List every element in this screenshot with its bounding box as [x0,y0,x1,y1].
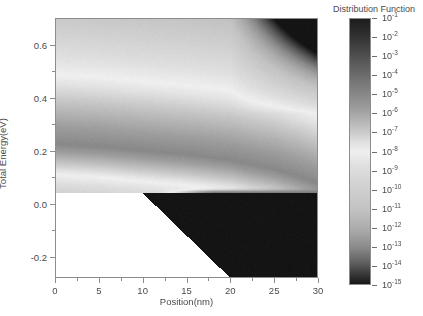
y-axis-minor-tick [52,177,55,178]
x-axis-tick [99,278,100,283]
colorbar-tick [372,94,377,95]
heatmap-plot-area [55,18,318,278]
y-axis-tick-label: 0.0 [3,198,47,209]
x-axis-minor-tick [252,278,253,281]
y-axis-tick [50,204,55,205]
colorbar-tick [372,171,377,172]
colorbar-tick-label: 10-6 [382,108,398,118]
colorbar-tick-label: 10-5 [382,89,398,99]
x-axis-minor-tick [121,278,122,281]
colorbar-tick-label: 10-14 [382,261,401,271]
colorbar-tick-label: 10-4 [382,70,398,80]
colorbar-tick-label: 10-8 [382,147,398,157]
y-axis-minor-tick [52,71,55,72]
x-axis-minor-tick [165,278,166,281]
y-axis-tick [50,98,55,99]
x-axis-tick-label: 30 [313,285,324,296]
x-axis-minor-tick [77,278,78,281]
colorbar-tick [372,228,377,229]
x-axis-tick [230,278,231,283]
x-axis-minor-tick [208,278,209,281]
x-axis-tick-label: 10 [137,285,148,296]
x-axis-tick [55,278,56,283]
x-axis-tick [274,278,275,283]
x-axis-tick-label: 15 [181,285,192,296]
colorbar-tick [372,56,377,57]
y-axis-tick [50,45,55,46]
x-axis-title: Position(nm) [55,296,318,307]
colorbar-tick-label: 10-3 [382,51,398,61]
y-axis-tick [50,151,55,152]
colorbar-tick [372,37,377,38]
y-axis-tick-label: 0.4 [3,92,47,103]
x-axis-tick [187,278,188,283]
y-axis-minor-tick [52,124,55,125]
heatmap-canvas [55,18,318,278]
colorbar-tick-label: 10-10 [382,185,401,195]
colorbar-tick [372,132,377,133]
colorbar-tick [372,190,377,191]
colorbar-tick-label: 10-2 [382,32,398,42]
y-axis-tick-label: -0.2 [3,251,47,262]
colorbar-tick [372,247,377,248]
colorbar-tick-label: 10-9 [382,166,398,176]
x-axis-tick [318,278,319,283]
y-axis-tick-label: 0.6 [3,39,47,50]
y-axis-tick-label: 0.2 [3,145,47,156]
colorbar-tick-label: 10-15 [382,280,401,290]
colorbar-tick [372,75,377,76]
y-axis-tick [50,257,55,258]
y-axis-title: Total Energy(eV) [0,118,8,189]
colorbar-tick-label: 10-13 [382,242,401,252]
x-axis-minor-tick [296,278,297,281]
x-axis-tick-label: 0 [52,285,57,296]
x-axis-tick-label: 5 [96,285,101,296]
colorbar-tick-label: 10-11 [382,204,401,214]
y-axis-minor-tick [52,230,55,231]
colorbar-tick-label: 10-1 [382,13,398,23]
colorbar-canvas [349,18,371,285]
colorbar-tick [372,152,377,153]
colorbar-title: Distribution Function [326,4,422,14]
colorbar-area [349,18,371,285]
colorbar-tick [372,266,377,267]
figure-root: -0.20.00.20.40.6051015202530 Total Energ… [0,0,423,316]
colorbar-tick-label: 10-7 [382,127,398,137]
colorbar-tick [372,285,377,286]
colorbar-tick [372,18,377,19]
colorbar-tick [372,113,377,114]
x-axis-tick-label: 25 [269,285,280,296]
x-axis-tick [143,278,144,283]
colorbar-tick [372,209,377,210]
x-axis-tick-label: 20 [225,285,236,296]
colorbar-tick-label: 10-12 [382,223,401,233]
